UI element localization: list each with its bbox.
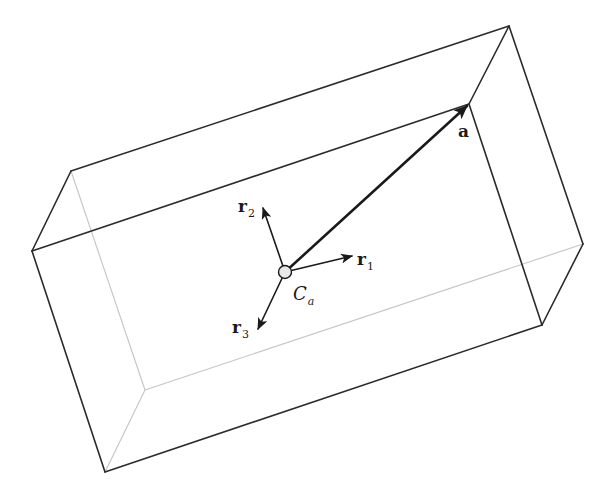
edge-top-back (71, 26, 509, 171)
edge-front-bottom (105, 325, 542, 472)
vector-r2 (263, 208, 285, 272)
vector-a (285, 106, 467, 272)
edge-right-front (469, 104, 542, 325)
label-r1: r1 (357, 249, 374, 273)
center-point (279, 266, 292, 279)
edge-top-front (32, 104, 469, 251)
edge-front-left (32, 251, 105, 472)
label-a: a (458, 121, 469, 141)
hidden-edge-bottom-left (105, 390, 145, 472)
label-r3: r3 (232, 317, 249, 341)
front-edges (32, 26, 583, 472)
hidden-edge-left-vertical (71, 171, 145, 390)
vector-r3 (258, 272, 285, 329)
label-center-ca: Ca (293, 283, 314, 308)
label-r2: r2 (238, 196, 255, 220)
edge-top-left (32, 171, 71, 251)
edge-right-back (509, 26, 583, 244)
box-diagram: a r1 r2 r3 Ca (0, 0, 610, 493)
